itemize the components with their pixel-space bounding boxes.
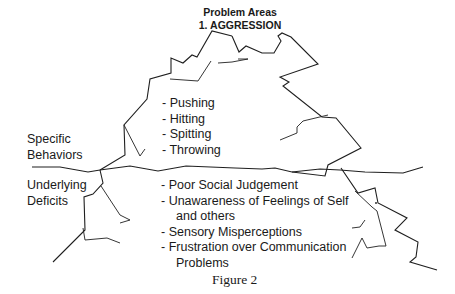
underlying-deficits-label: Underlying Deficits <box>27 178 87 209</box>
deficit-item-continued: Problems <box>161 256 349 272</box>
deficit-item: - Poor Social Judgement <box>161 178 349 194</box>
deficits-list: - Poor Social Judgement - Unawareness of… <box>161 178 349 271</box>
underwater-right-crack <box>352 191 386 258</box>
deficit-item: - Frustration over Communication <box>161 240 349 256</box>
label-line: Underlying <box>27 178 87 194</box>
waterline <box>32 166 423 173</box>
crack-top <box>218 59 248 63</box>
specific-behaviors-label: Specific Behaviors <box>27 132 83 163</box>
behavior-item: - Pushing <box>162 96 221 112</box>
behavior-item: - Throwing <box>162 143 221 159</box>
iceberg-figure: Problem Areas 1. AGGRESSION Specific Beh… <box>0 0 455 294</box>
underwater-left-crack <box>101 186 130 223</box>
title-text: Problem Areas <box>170 6 310 19</box>
subtitle-text: 1. AGGRESSION <box>170 19 310 32</box>
deficit-item-continued: and others <box>161 209 349 225</box>
crack-right <box>280 115 328 140</box>
label-line: Specific <box>27 132 83 148</box>
underwater-right <box>341 168 437 270</box>
crack-mid-left <box>124 125 145 156</box>
iceberg-outline-right <box>232 33 361 176</box>
crack-upper-left <box>170 61 211 81</box>
figure-caption: Figure 2 <box>212 272 257 288</box>
behavior-item: - Hitting <box>162 112 221 128</box>
deficit-item: - Sensory Misperceptions <box>161 225 349 241</box>
underwater-right-crack2 <box>352 220 365 228</box>
label-line: Deficits <box>27 194 87 210</box>
dot-mark <box>375 202 377 204</box>
behaviors-list: - Pushing - Hitting - Spitting - Throwin… <box>162 96 221 158</box>
label-line: Behaviors <box>27 148 83 164</box>
deficit-item: - Unawareness of Feelings of Self <box>161 194 349 210</box>
behavior-item: - Spitting <box>162 127 221 143</box>
diagram-title: Problem Areas 1. AGGRESSION <box>170 6 310 32</box>
underwater-left-crack2 <box>83 228 120 243</box>
